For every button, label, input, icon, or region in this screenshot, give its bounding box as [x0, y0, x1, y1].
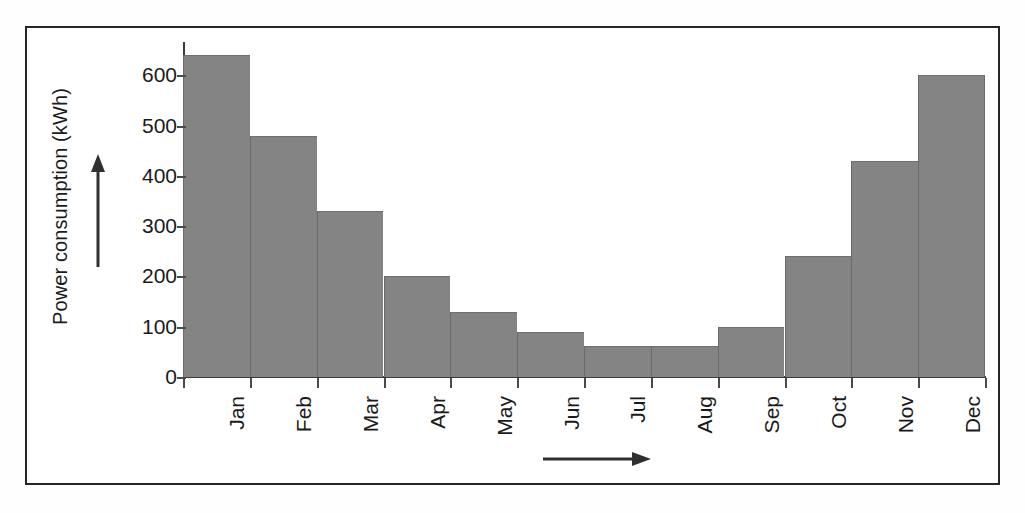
bar-may	[450, 312, 517, 377]
x-tick-mark	[384, 378, 386, 388]
x-category-label-nov: Nov	[894, 392, 918, 462]
y-tick-label: 500	[117, 114, 177, 138]
x-category-label-aug: Aug	[693, 392, 717, 462]
y-tick-label: 400	[117, 164, 177, 188]
x-tick-mark	[450, 378, 452, 388]
y-tick-mark	[177, 75, 186, 77]
x-category-label-may: May	[493, 392, 517, 462]
x-tick-mark	[584, 378, 586, 388]
x-category-label-feb: Feb	[292, 392, 316, 462]
figure-canvas: Power consumption (kWh) 0100200300400500…	[0, 0, 1025, 513]
y-axis-ticks: 0100200300400500600	[113, 42, 177, 378]
x-category-label-apr: Apr	[426, 392, 450, 462]
y-tick-label: 300	[117, 214, 177, 238]
x-tick-mark	[517, 378, 519, 388]
right-arrow-icon	[543, 448, 653, 470]
y-tick-mark	[177, 126, 186, 128]
x-tick-mark	[851, 378, 853, 388]
bar-jan	[183, 55, 250, 377]
bar-jul	[584, 346, 651, 377]
x-category-label-sep: Sep	[760, 392, 784, 462]
x-tick-mark	[250, 378, 252, 388]
bar-feb	[250, 136, 317, 377]
y-tick-label: 600	[117, 63, 177, 87]
y-tick-label: 0	[117, 365, 177, 389]
x-tick-mark	[918, 378, 920, 388]
bar-jun	[517, 332, 584, 377]
y-tick-label: 200	[117, 264, 177, 288]
x-tick-mark	[985, 378, 987, 388]
bar-apr	[384, 276, 451, 377]
bar-aug	[651, 346, 718, 377]
x-category-label-dec: Dec	[961, 392, 985, 462]
x-category-label-oct: Oct	[827, 392, 851, 462]
x-tick-mark	[718, 378, 720, 388]
y-tick-mark	[177, 226, 186, 228]
y-tick-label: 100	[117, 315, 177, 339]
x-tick-mark	[651, 378, 653, 388]
x-category-label-jan: Jan	[225, 392, 249, 462]
bar-nov	[851, 161, 918, 377]
y-tick-mark	[177, 327, 186, 329]
x-tick-mark	[183, 378, 185, 388]
y-tick-mark	[177, 176, 186, 178]
x-tick-mark	[317, 378, 319, 388]
y-axis-label: Power consumption (kWh)	[49, 57, 72, 357]
x-tick-mark	[785, 378, 787, 388]
x-category-label-mar: Mar	[359, 392, 383, 462]
bar-dec	[918, 75, 985, 377]
bar-sep	[718, 327, 785, 377]
bar-mar	[317, 211, 384, 377]
bar-oct	[785, 256, 852, 377]
plot-area	[183, 42, 985, 377]
y-axis-label-group: Power consumption (kWh)	[30, 55, 70, 385]
y-tick-mark	[177, 377, 186, 379]
up-arrow-icon	[88, 152, 108, 267]
y-tick-mark	[177, 276, 186, 278]
